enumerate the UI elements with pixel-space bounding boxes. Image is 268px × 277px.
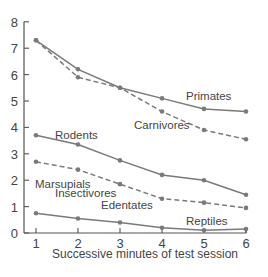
data-point [118, 86, 123, 91]
data-point [244, 206, 249, 211]
series-label-carnivores: Carnivores [134, 119, 190, 131]
data-point [244, 137, 249, 142]
y-tick-label: 0 [11, 226, 18, 241]
data-point [244, 109, 249, 114]
series-label-reptiles: Reptiles [186, 215, 228, 227]
x-axis-title: Successive minutes of test session [52, 247, 238, 261]
y-tick-label: 2 [11, 173, 18, 188]
data-point [202, 200, 207, 205]
data-point [76, 216, 81, 221]
data-point [160, 173, 165, 178]
data-point [202, 128, 207, 133]
data-point [160, 109, 165, 114]
x-tick-label: 1 [32, 236, 39, 251]
data-point [244, 192, 249, 197]
data-point [202, 228, 207, 233]
data-point [202, 178, 207, 183]
data-point [160, 96, 165, 101]
series-label-insectivores: Insectivores [55, 187, 117, 199]
data-point [160, 196, 165, 201]
series-labels: PrimatesCarnivoresRodentsMarsupialsInsec… [35, 90, 232, 227]
data-point [34, 133, 39, 138]
data-point [76, 75, 81, 80]
data-point [118, 220, 123, 225]
y-tick-label: 8 [11, 15, 18, 30]
y-tick-label: 1 [11, 200, 18, 215]
series-label-edentates: Edentates [101, 199, 153, 211]
data-point [76, 142, 81, 147]
data-point [118, 182, 123, 187]
line-chart: 012345678123456 PrimatesCarnivoresRodent… [0, 0, 268, 277]
y-tick-label: 5 [11, 94, 18, 109]
x-tick-label: 6 [242, 236, 249, 251]
data-point [34, 38, 39, 43]
y-tick-label: 4 [11, 120, 18, 135]
series-label-primates: Primates [186, 90, 232, 102]
y-tick-label: 7 [11, 41, 18, 56]
data-point [202, 107, 207, 112]
data-point [160, 225, 165, 230]
data-point [76, 67, 81, 72]
data-point [244, 227, 249, 232]
data-point [118, 158, 123, 163]
y-tick-label: 6 [11, 68, 18, 83]
series-label-rodents: Rodents [55, 129, 98, 141]
data-point [76, 167, 81, 172]
y-tick-label: 3 [11, 147, 18, 162]
data-point [34, 159, 39, 164]
data-point [34, 211, 39, 216]
